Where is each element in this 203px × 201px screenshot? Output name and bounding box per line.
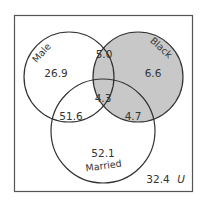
venn-diagram: Male Black Married 26.9 5.0 6.6 4.3 51.6… bbox=[0, 0, 203, 201]
male-only-value: 26.9 bbox=[44, 67, 67, 79]
black-married-value: 4.7 bbox=[125, 110, 142, 122]
all-three-value: 4.3 bbox=[95, 92, 112, 104]
male-black-value: 5.0 bbox=[96, 48, 113, 60]
universe-label: U bbox=[177, 173, 185, 185]
married-only-value: 52.1 bbox=[91, 147, 114, 159]
outside-value: 32.4 bbox=[146, 173, 170, 185]
black-only-value: 6.6 bbox=[145, 67, 162, 79]
male-married-value: 51.6 bbox=[59, 110, 83, 122]
